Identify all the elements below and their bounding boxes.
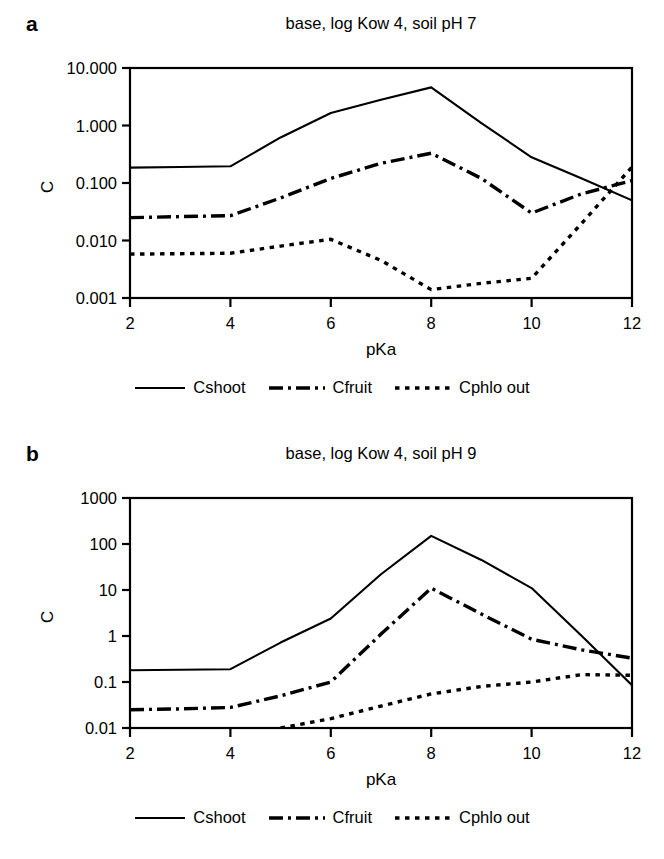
x-tick-label: 2 <box>125 744 134 762</box>
series-group <box>130 87 632 289</box>
y-tick-label: 0.100 <box>76 174 117 192</box>
x-axis-title-a: pKa <box>130 340 632 360</box>
y-tick-label: 10.000 <box>67 59 117 77</box>
legend-label: Cshoot <box>193 378 245 397</box>
y-axis-title-a: C <box>38 181 58 193</box>
x-tick-label: 8 <box>427 314 436 332</box>
line-dashdot-icon <box>268 812 326 824</box>
line-dashdot-icon <box>268 382 326 394</box>
series-line-cfruit <box>130 153 632 217</box>
legend-item-cphlo-out[interactable]: Cphlo out <box>394 808 530 827</box>
series-line-cshoot <box>130 536 632 685</box>
line-dotted-icon <box>394 812 452 824</box>
x-tick-label: 6 <box>326 314 335 332</box>
legend-label: Cfruit <box>333 808 372 827</box>
chart-panel-a: a base, log Kow 4, soil pH 7 0.0010.0100… <box>0 0 664 429</box>
legend-item-cfruit[interactable]: Cfruit <box>268 378 372 397</box>
x-tick-label: 10 <box>522 744 540 762</box>
legend-b: CshootCfruitCphlo out <box>0 808 664 827</box>
series-line-cfruit <box>130 588 632 710</box>
y-tick-label: 1000 <box>80 489 117 507</box>
legend-label: Cshoot <box>193 808 245 827</box>
series-group <box>130 536 632 728</box>
x-tick-label: 6 <box>326 744 335 762</box>
y-tick-label: 0.1 <box>94 673 117 691</box>
y-tick-label: 0.010 <box>76 232 117 250</box>
legend-item-cshoot[interactable]: Cshoot <box>134 378 245 397</box>
legend-label: Cfruit <box>333 378 372 397</box>
x-axis-title-b: pKa <box>130 770 632 790</box>
legend-label: Cphlo out <box>459 378 530 397</box>
x-tick-label: 12 <box>623 744 641 762</box>
y-tick-label: 1.000 <box>76 117 117 135</box>
x-tick-label: 2 <box>125 314 134 332</box>
x-tick-label: 4 <box>226 744 235 762</box>
legend-item-cfruit[interactable]: Cfruit <box>268 808 372 827</box>
plot-svg-b: 0.010.1110100100024681012 <box>0 430 664 800</box>
legend-label: Cphlo out <box>459 808 530 827</box>
y-axis-title-b: C <box>38 611 58 623</box>
legend-a: CshootCfruitCphlo out <box>0 378 664 397</box>
x-tick-label: 12 <box>623 314 641 332</box>
plot-frame <box>130 68 632 298</box>
x-tick-label: 10 <box>522 314 540 332</box>
x-tick-label: 4 <box>226 314 235 332</box>
line-solid-icon <box>134 812 186 824</box>
series-line-cphlo-out <box>130 167 632 290</box>
y-tick-label: 100 <box>89 535 117 553</box>
x-tick-label: 8 <box>427 744 436 762</box>
series-line-cphlo-out <box>281 675 632 728</box>
plot-area-a: 0.0010.0100.1001.00010.00024681012 <box>0 0 664 429</box>
legend-item-cshoot[interactable]: Cshoot <box>134 808 245 827</box>
legend-item-cphlo-out[interactable]: Cphlo out <box>394 378 530 397</box>
y-tick-label: 1 <box>108 627 117 645</box>
y-tick-label: 10 <box>99 581 117 599</box>
line-solid-icon <box>134 382 186 394</box>
y-tick-label: 0.01 <box>85 719 117 737</box>
series-line-cshoot <box>130 87 632 200</box>
plot-svg-a: 0.0010.0100.1001.00010.00024681012 <box>0 0 664 370</box>
chart-panel-b: b base, log Kow 4, soil pH 9 0.010.11101… <box>0 430 664 859</box>
plot-area-b: 0.010.1110100100024681012 <box>0 430 664 859</box>
line-dotted-icon <box>394 382 452 394</box>
y-tick-label: 0.001 <box>76 289 117 307</box>
